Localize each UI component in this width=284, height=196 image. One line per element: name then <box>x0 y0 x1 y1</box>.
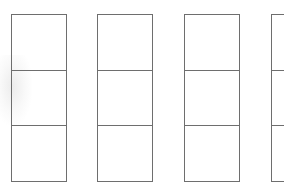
column-4-cell-middle <box>272 70 284 126</box>
column-2 <box>97 14 153 182</box>
column-2-cell-middle <box>98 70 152 126</box>
column-2-cell-bottom <box>98 125 152 181</box>
column-2-cell-top <box>98 15 152 70</box>
column-3 <box>184 14 240 182</box>
column-4-cell-bottom <box>272 125 284 181</box>
column-4 <box>271 14 284 182</box>
column-3-cell-top <box>185 15 239 70</box>
column-1-cell-bottom <box>12 125 66 181</box>
column-3-cell-middle <box>185 70 239 126</box>
column-1-cell-middle <box>12 70 66 126</box>
column-1-cell-top <box>12 15 66 70</box>
column-4-cell-top <box>272 15 284 70</box>
column-3-cell-bottom <box>185 125 239 181</box>
column-1 <box>11 14 67 182</box>
